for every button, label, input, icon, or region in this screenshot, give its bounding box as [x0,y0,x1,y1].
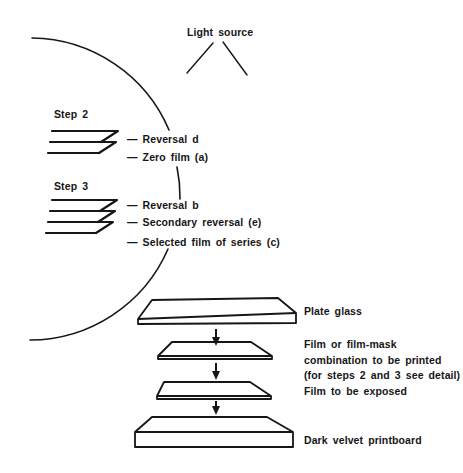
step2-layer-reversal-d-label: — Reversal d [127,134,199,145]
light-ray-right [223,42,247,75]
detail-circle-arc [30,38,180,340]
step3-label: Step 3 [54,181,88,192]
light-ray-left [187,43,213,73]
film-mask-label-line-2: combination to be printed [304,353,460,369]
step2-layer-zero-film-label: — Zero film (a) [127,152,208,163]
printboard-shape [135,417,293,447]
printboard-label: Dark velvet printboard [304,435,422,446]
step2-label: Step 2 [54,109,88,120]
film-mask-label: Film or film-mask combination to be prin… [304,337,460,384]
step2-film-stack [48,131,118,153]
film-mask-label-line-1: Film or film-mask [304,337,460,353]
plate-glass-label: Plate glass [304,306,362,317]
film-mask-label-line-3: (for steps 2 and 3 see detail) [304,368,460,384]
step3-layer-secondary-reversal-label: — Secondary reversal (e) [127,217,261,228]
down-arrow-2 [212,363,220,380]
step3-layer-selected-film-label: — Selected film of series (c) [127,237,280,248]
step3-film-stack [46,200,117,233]
detail-circle-arc-middle [177,167,180,199]
film-to-expose-shape [157,382,271,399]
detail-circle-arc-bottom [30,249,168,340]
light-rays [187,42,247,75]
detail-circle-arc-top [32,38,169,130]
exposure-diagram: Light source Step 2 — Reversal d — Zero … [0,0,463,473]
film-to-expose-label: Film to be exposed [304,386,407,397]
step3-layer-reversal-b-label: — Reversal b [127,200,199,211]
light-source-label: Light source [187,27,253,38]
down-arrow-3 [212,401,220,415]
film-mask-shape [158,342,272,359]
plate-glass-shape [138,298,296,324]
